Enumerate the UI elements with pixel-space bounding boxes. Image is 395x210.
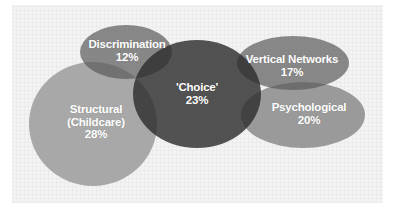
label-vertical-networks-value: 17% <box>246 65 338 78</box>
label-discrimination: Discrimination 12% <box>88 38 165 63</box>
label-structural-value: 28% <box>67 128 125 141</box>
label-choice-value: 23% <box>176 93 218 106</box>
label-structural-sub: (Childcare) <box>67 116 125 129</box>
label-discrimination-value: 12% <box>88 50 165 63</box>
label-choice: 'Choice' 23% <box>176 81 218 106</box>
label-psychological: Psychological 20% <box>272 101 347 126</box>
label-vertical-networks-name: Vertical Networks <box>246 53 338 66</box>
label-structural: Structural (Childcare) 28% <box>67 103 125 141</box>
label-psychological-value: 20% <box>272 113 347 126</box>
label-vertical-networks: Vertical Networks 17% <box>246 53 338 78</box>
label-choice-name: 'Choice' <box>176 81 218 94</box>
label-discrimination-name: Discrimination <box>88 38 165 51</box>
label-psychological-name: Psychological <box>272 101 347 114</box>
label-structural-name: Structural <box>67 103 125 116</box>
diagram-canvas: Discrimination 12% 'Choice' 23% Vertical… <box>0 0 395 210</box>
